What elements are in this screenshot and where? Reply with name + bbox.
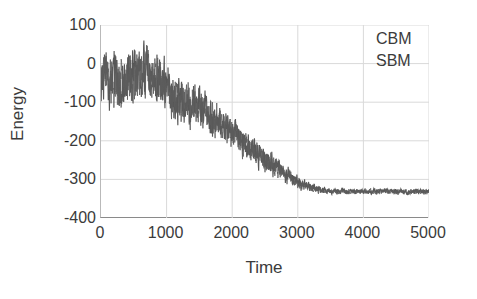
- y-axis-title: Energy: [8, 54, 30, 174]
- y-tick-label: 0: [40, 55, 96, 73]
- y-tick-label: -400: [40, 209, 96, 227]
- y-tick-label: 100: [40, 16, 96, 34]
- x-tick-label: 1000: [148, 224, 184, 242]
- legend-label-cbm: CBM: [376, 31, 412, 47]
- x-tick-label: 4000: [345, 224, 381, 242]
- chart-legend: CBM SBM: [333, 28, 433, 72]
- legend-item-sbm[interactable]: SBM: [333, 50, 433, 72]
- legend-item-cbm[interactable]: CBM: [333, 28, 433, 50]
- energy-vs-time-chart: Energy 1000-100-200-300-400 010002000300…: [0, 0, 477, 299]
- x-tick-label: 2000: [213, 224, 249, 242]
- x-tick-label: 0: [96, 224, 105, 242]
- x-tick-label: 3000: [279, 224, 315, 242]
- x-axis-title: Time: [100, 258, 428, 278]
- y-axis-tick-labels: 1000-100-200-300-400: [40, 0, 96, 299]
- legend-label-sbm: SBM: [376, 53, 411, 69]
- y-tick-label: -200: [40, 132, 96, 150]
- y-tick-label: -300: [40, 170, 96, 188]
- y-tick-label: -100: [40, 93, 96, 111]
- x-tick-label: 5000: [410, 224, 446, 242]
